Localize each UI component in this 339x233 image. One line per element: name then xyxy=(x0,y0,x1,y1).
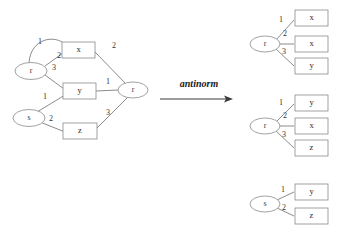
tree2-root-label: r xyxy=(264,121,267,130)
edge-label-r-x-2: 2 xyxy=(57,51,61,60)
node-s-left-label: s xyxy=(27,113,30,122)
edge-r-y-3 xyxy=(45,75,64,89)
edge-s-z-2 xyxy=(40,122,65,132)
edge-z-r-3 xyxy=(97,97,128,128)
edge-x-r-2 xyxy=(95,52,126,84)
node-r-right-label: r xyxy=(132,85,135,94)
antinorm-arrow-group: antinorm xyxy=(160,78,233,102)
tree2-edge-label-1: 1 xyxy=(279,98,283,107)
edge-label-s-z-2: 2 xyxy=(49,114,53,123)
right-tree-1: r x x y 1 2 3 xyxy=(250,10,328,74)
edge-label-r-x-1: 1 xyxy=(38,37,42,46)
tree3-edge-label-2: 2 xyxy=(282,203,286,212)
tree3-edge-1 xyxy=(277,192,294,200)
edge-label-y-r-1: 1 xyxy=(106,77,110,86)
edge-y-r-1 xyxy=(96,90,118,91)
edge-label-s-y-1: 1 xyxy=(43,92,47,101)
left-graph-boxes: x y z xyxy=(62,42,97,139)
edge-s-y-1 xyxy=(37,95,65,112)
tree3-child-label-2: z xyxy=(310,210,314,220)
tree1-edge-label-1: 1 xyxy=(279,15,283,24)
box-z-left-label: z xyxy=(78,125,82,135)
tree1-root-label: r xyxy=(264,39,267,48)
edge-label-x-r-2: 2 xyxy=(112,41,116,50)
node-r-left-label: r xyxy=(30,66,33,75)
tree2-child-label-3: z xyxy=(310,142,314,152)
tree3-root-label: s xyxy=(263,199,266,208)
right-tree-3: s y z 1 2 xyxy=(250,184,328,224)
left-graph: r s r x y z 1 2 3 1 2 2 1 3 xyxy=(13,37,148,139)
edge-label-r-y-3: 3 xyxy=(52,63,56,72)
tree3-edge-label-1: 1 xyxy=(281,185,285,194)
antinorm-transformation-diagram: r s r x y z 1 2 3 1 2 2 1 3 anti xyxy=(0,0,339,233)
tree1-edge-label-2: 2 xyxy=(283,29,287,38)
operation-label: antinorm xyxy=(180,78,219,89)
edge-label-z-r-3: 3 xyxy=(106,108,110,117)
right-tree-2: r y x z 1 2 3 xyxy=(250,95,328,156)
tree2-edge-label-2: 2 xyxy=(283,111,287,120)
tree2-edge-label-3: 3 xyxy=(282,130,286,139)
tree1-edge-label-3: 3 xyxy=(282,47,286,56)
